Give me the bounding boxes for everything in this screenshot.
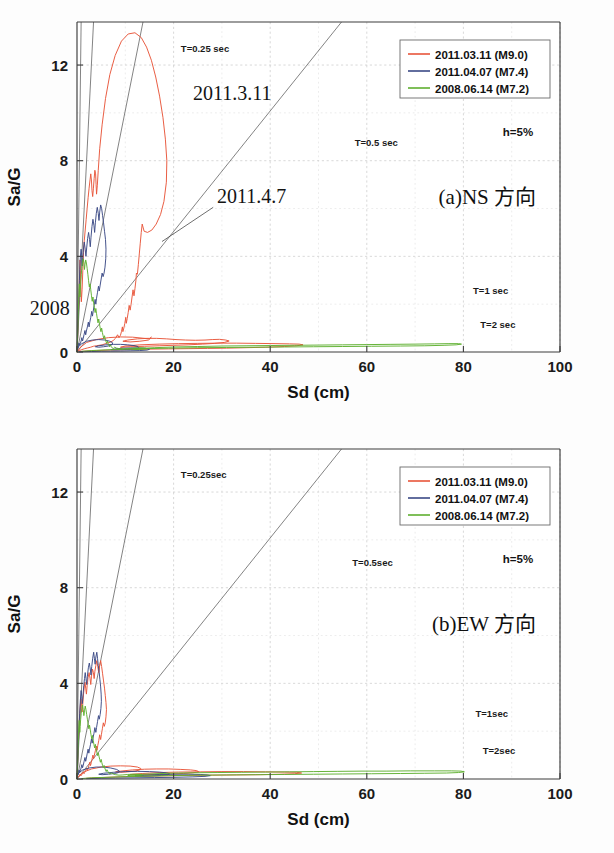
y-tick-label: 0 <box>60 771 68 788</box>
period-label-1: T=0.5 sec <box>355 137 398 148</box>
period-label-0: T=0.25 sec <box>181 43 229 54</box>
x-tick-label: 60 <box>358 358 375 375</box>
legend-label-0: 2011.03.11 (M9.0) <box>435 476 528 488</box>
x-tick-label: 0 <box>73 358 81 375</box>
y-tick-label: 0 <box>60 344 68 361</box>
panel-caption: (a)NS 方向 <box>439 185 536 209</box>
period-label-2: T=1 sec <box>473 285 508 296</box>
chart-panel-ew: T=0.25secT=0.5secT=1secT=2sec02040608010… <box>0 427 614 853</box>
damping-note: h=5% <box>503 126 533 138</box>
chart-panel-ns: T=0.25 secT=0.5 secT=1 secT=2 sec0204060… <box>0 0 614 426</box>
x-axis-title: Sd (cm) <box>287 383 349 402</box>
damping-note: h=5% <box>503 553 533 565</box>
legend-label-1: 2011.04.07 (M7.4) <box>435 493 529 505</box>
x-tick-label: 20 <box>165 358 182 375</box>
y-axis-title: Sa/G <box>5 168 24 207</box>
x-tick-label: 20 <box>165 785 182 802</box>
period-label-2: T=1sec <box>475 708 508 719</box>
x-tick-label: 80 <box>455 358 472 375</box>
x-tick-label: 100 <box>547 358 572 375</box>
legend-label-1: 2011.04.07 (M7.4) <box>435 66 529 78</box>
legend-label-2: 2008.06.14 (M7.2) <box>435 510 529 522</box>
annotation-1: 2011.4.7 <box>217 185 286 207</box>
x-tick-label: 40 <box>262 358 279 375</box>
x-tick-label: 60 <box>358 785 375 802</box>
legend-label-0: 2011.03.11 (M9.0) <box>435 49 528 61</box>
y-tick-label: 8 <box>60 579 68 596</box>
y-tick-label: 4 <box>60 248 69 265</box>
legend: 2011.03.11 (M9.0)2011.04.07 (M7.4)2008.0… <box>400 40 550 98</box>
x-tick-label: 80 <box>455 785 472 802</box>
y-tick-label: 12 <box>51 484 68 501</box>
x-tick-label: 100 <box>547 785 572 802</box>
period-label-3: T=2 sec <box>480 319 515 330</box>
x-tick-label: 40 <box>262 785 279 802</box>
y-tick-label: 8 <box>60 152 68 169</box>
legend-label-2: 2008.06.14 (M7.2) <box>435 83 529 95</box>
legend: 2011.03.11 (M9.0)2011.04.07 (M7.4)2008.0… <box>400 467 550 525</box>
figure-page: T=0.25 secT=0.5 secT=1 secT=2 sec0204060… <box>0 0 614 853</box>
x-tick-label: 0 <box>73 785 81 802</box>
x-axis-title: Sd (cm) <box>287 810 349 829</box>
y-axis-title: Sa/G <box>5 595 24 634</box>
y-tick-label: 4 <box>60 675 69 692</box>
period-label-3: T=2sec <box>483 745 515 756</box>
panel-caption: (b)EW 方向 <box>432 612 536 636</box>
annotation-2: 2008 <box>30 297 70 319</box>
period-label-0: T=0.25sec <box>181 469 227 480</box>
period-label-1: T=0.5sec <box>352 557 392 568</box>
annotation-0: 2011.3.11 <box>193 82 272 104</box>
y-tick-label: 12 <box>51 57 68 74</box>
